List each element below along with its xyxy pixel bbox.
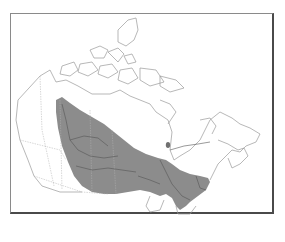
canada-map bbox=[0, 0, 285, 242]
range-shaded-region bbox=[56, 97, 210, 210]
island-marker bbox=[166, 142, 170, 148]
